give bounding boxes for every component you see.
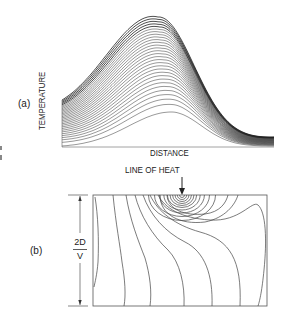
- figure-canvas: [0, 0, 281, 319]
- dimension-arrow-top: [78, 196, 81, 201]
- temperature-curves: [62, 16, 274, 147]
- dimension-arrow-bottom: [78, 300, 81, 305]
- x-axis-label: DISTANCE: [150, 147, 189, 158]
- y-axis-label: TEMPERATURE: [36, 72, 47, 130]
- panel-a-label: (a): [18, 98, 30, 109]
- temperature-curve: [62, 60, 274, 142]
- panel-b-label: (b): [30, 245, 42, 256]
- dimension-numerator: 2D: [70, 237, 90, 247]
- temperature-curve: [62, 51, 274, 141]
- isotherm-diagram: [68, 177, 267, 306]
- temperature-curve: [62, 24, 274, 138]
- dimension-denominator: V: [70, 251, 90, 261]
- temperature-curve: [62, 48, 274, 140]
- isotherm-ring: [170, 195, 194, 206]
- down-arrow-head-icon: [179, 188, 185, 195]
- line-of-heat-label: LINE OF HEAT: [125, 164, 180, 175]
- temperature-curve: [62, 26, 274, 138]
